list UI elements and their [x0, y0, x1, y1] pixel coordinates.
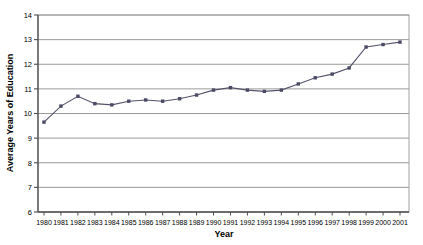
x-tick-label: 1987	[155, 219, 171, 226]
data-point	[110, 103, 113, 106]
data-point	[314, 76, 317, 79]
x-tick-label: 1993	[257, 219, 273, 226]
y-tick-label: 12	[24, 60, 32, 69]
x-tick-label: 1980	[36, 219, 52, 226]
y-axis-ticks: 67891011121314	[24, 11, 38, 217]
data-point	[127, 99, 130, 102]
x-tick-label: 1999	[358, 219, 374, 226]
data-point	[42, 120, 45, 123]
x-tick-label: 1986	[138, 219, 154, 226]
y-tick-label: 8	[28, 159, 32, 168]
x-tick-label: 2000	[375, 219, 391, 226]
x-tick-label: 1995	[290, 219, 306, 226]
x-tick-label: 1997	[324, 219, 340, 226]
x-axis-ticks: 1980198119821983198419851986198719881989…	[36, 212, 408, 226]
data-point	[347, 66, 350, 69]
x-tick-label: 1991	[223, 219, 239, 226]
y-tick-label: 11	[24, 85, 32, 94]
y-tick-label: 14	[24, 11, 32, 20]
data-point	[76, 95, 79, 98]
y-tick-label: 13	[24, 35, 32, 44]
data-point	[280, 88, 283, 91]
x-tick-label: 2001	[392, 219, 408, 226]
data-point	[178, 97, 181, 100]
data-point	[398, 40, 401, 43]
line-chart: 67891011121314 1980198119821983198419851…	[0, 0, 423, 245]
x-tick-label: 1982	[70, 219, 86, 226]
data-point	[263, 90, 266, 93]
data-point	[297, 82, 300, 85]
x-tick-label: 1990	[206, 219, 222, 226]
y-axis-title: Average Years of Education	[5, 54, 15, 173]
x-tick-label: 1996	[307, 219, 323, 226]
data-point	[144, 98, 147, 101]
data-point	[161, 99, 164, 102]
y-tick-label: 9	[28, 134, 32, 143]
y-tick-label: 10	[24, 109, 32, 118]
x-tick-label: 1981	[53, 219, 69, 226]
x-tick-label: 1992	[240, 219, 256, 226]
y-tick-label: 6	[28, 208, 32, 217]
data-point	[330, 72, 333, 75]
data-point	[212, 88, 215, 91]
chart-container: 67891011121314 1980198119821983198419851…	[0, 0, 423, 245]
data-point	[93, 102, 96, 105]
x-tick-label: 1988	[172, 219, 188, 226]
data-point	[195, 93, 198, 96]
data-point	[229, 86, 232, 89]
y-tick-label: 7	[28, 183, 32, 192]
x-tick-label: 1985	[121, 219, 137, 226]
data-point	[246, 88, 249, 91]
x-axis-title: Year	[214, 229, 234, 239]
x-tick-label: 1989	[189, 219, 205, 226]
x-tick-label: 1998	[341, 219, 357, 226]
x-tick-label: 1983	[87, 219, 103, 226]
data-point	[59, 104, 62, 107]
x-tick-label: 1984	[104, 219, 120, 226]
data-point	[364, 45, 367, 48]
x-tick-label: 1994	[274, 219, 290, 226]
data-point	[381, 43, 384, 46]
